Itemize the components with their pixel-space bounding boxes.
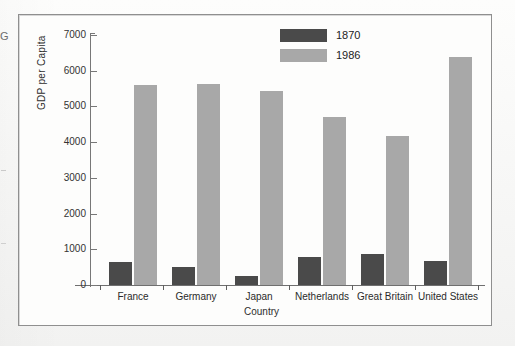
y-axis-tick-label: 0 (52, 280, 86, 290)
bar-1870-united-states (424, 261, 447, 285)
margin-mark-lower (1, 243, 6, 244)
x-axis-tick (163, 285, 164, 290)
bar-1870-japan (235, 276, 258, 285)
bar-1986-france (134, 85, 157, 285)
bar-1986-germany (197, 84, 220, 285)
x-axis-tick (478, 285, 479, 290)
x-axis-tick (352, 285, 353, 290)
y-axis-tick (91, 285, 97, 286)
y-axis-title: GDP per Capita (36, 0, 47, 110)
y-axis-tick-label: 3000 (52, 173, 86, 183)
x-axis-title: Country (0, 306, 515, 317)
plot-area (91, 35, 480, 285)
chart-legend: 18701986 (280, 27, 400, 67)
legend-label: 1986 (336, 49, 360, 62)
x-axis-tick (415, 285, 416, 290)
bar-1986-united-states (449, 57, 472, 285)
y-axis-tick-label: 1000 (52, 244, 86, 254)
y-axis-tick-label: 6000 (52, 66, 86, 76)
legend-label: 1870 (336, 29, 360, 42)
bar-1986-netherlands (323, 117, 346, 285)
bar-1870-france (109, 262, 132, 285)
bar-1986-great-britain (386, 136, 409, 285)
margin-stray-glyph: G (0, 30, 8, 42)
x-axis-tick (226, 285, 227, 290)
margin-mark-upper (1, 170, 6, 171)
x-axis-tick (100, 285, 101, 290)
y-axis-tick-label: 7000 (52, 30, 86, 40)
y-axis-top-cap (90, 33, 95, 34)
x-axis-line (75, 285, 485, 286)
legend-swatch (280, 29, 327, 42)
bar-1870-netherlands (298, 257, 321, 285)
y-axis-tick-label: 2000 (52, 209, 86, 219)
bar-1986-japan (260, 91, 283, 285)
bar-1870-great-britain (361, 254, 384, 285)
y-axis-tick-label: 4000 (52, 137, 86, 147)
legend-item: 1986 (280, 47, 400, 64)
x-axis-tick (289, 285, 290, 290)
y-axis-tick-label: 5000 (52, 101, 86, 111)
bar-1870-germany (172, 267, 195, 285)
legend-swatch (280, 49, 327, 62)
legend-item: 1870 (280, 27, 400, 44)
x-axis-category-label: United States (408, 291, 488, 302)
